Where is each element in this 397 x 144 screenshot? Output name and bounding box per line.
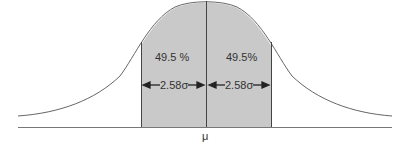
left-percent-label: 49.5 %	[155, 51, 189, 63]
left-width-label: 2.58σ	[160, 79, 188, 91]
mean-label: μ	[202, 130, 208, 142]
right-percent-label: 49.5%	[226, 51, 257, 63]
normal-curve-diagram: 49.5 % 49.5% 2.58σ 2.58σ μ	[0, 0, 397, 144]
right-width-label: 2.58σ	[225, 79, 253, 91]
